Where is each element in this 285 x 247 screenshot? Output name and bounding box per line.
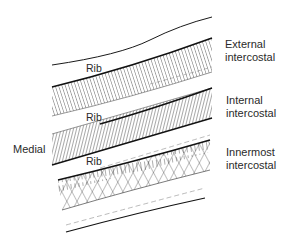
internal-intercostal-label-line2: intercostal [226,107,276,120]
rib-label-3: Rib [86,155,102,167]
internal-intercostal-label-line1: Internal [226,94,276,107]
innermost-intercostal-label: Innermost intercostal [226,146,276,172]
external-intercostal-label-line2: intercostal [225,51,275,64]
innermost-intercostal-label-line1: Innermost [226,146,276,159]
medial-label: Medial [13,143,45,156]
rib-label-2: Rib [86,111,102,123]
innermost-intercostal-label-line2: intercostal [226,159,276,172]
external-intercostal-label-line1: External [225,38,275,51]
internal-intercostal-label: Internal intercostal [226,94,276,120]
rib-label-1: Rib [86,62,102,74]
external-intercostal-label: External intercostal [225,38,275,64]
